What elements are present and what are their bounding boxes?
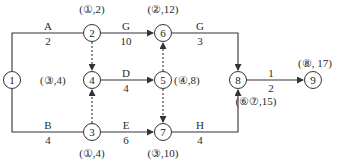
activity-A-duration: 2	[45, 36, 51, 47]
arrow-activity-H	[172, 90, 238, 132]
node-3-annotation: (①,4)	[79, 148, 105, 159]
activity-G2-name: G	[196, 21, 204, 32]
node-3: 3	[83, 123, 101, 141]
activity-1-duration: 2	[268, 83, 274, 94]
node-2-annotation: (①,2)	[79, 4, 105, 15]
node-9-annotation: (⑧, 17)	[298, 58, 332, 69]
node-1: 1	[3, 71, 21, 89]
activity-1-name: 1	[268, 68, 274, 79]
node-7-annotation: (③,10)	[147, 148, 178, 159]
node-6-annotation: (②,12)	[147, 4, 178, 15]
node-8-annotation: (⑥⑦,15)	[235, 96, 276, 107]
node-4-annotation: (③,4)	[40, 75, 66, 86]
activity-G-duration: 10	[121, 36, 132, 47]
node-7: 7	[154, 123, 172, 141]
node-8: 8	[229, 71, 247, 89]
node-4: 4	[83, 71, 101, 89]
arrow-activity-G-6-8	[172, 33, 238, 70]
activity-D-name: D	[122, 68, 130, 79]
activity-B-duration: 4	[45, 135, 51, 146]
activity-G2-duration: 3	[197, 36, 203, 47]
activity-G-name: G	[122, 21, 130, 32]
activity-H-duration: 4	[197, 135, 203, 146]
activity-D-duration: 4	[123, 83, 129, 94]
activity-A-name: A	[44, 21, 52, 32]
node-2: 2	[83, 24, 101, 42]
node-5: 5	[154, 71, 172, 89]
activity-H-name: H	[196, 120, 204, 131]
activity-E-duration: 6	[123, 135, 129, 146]
activity-E-name: E	[123, 120, 130, 131]
node-5-annotation: (④,8)	[174, 75, 200, 86]
node-9: 9	[304, 71, 322, 89]
activity-B-name: B	[44, 120, 51, 131]
node-6: 6	[154, 24, 172, 42]
